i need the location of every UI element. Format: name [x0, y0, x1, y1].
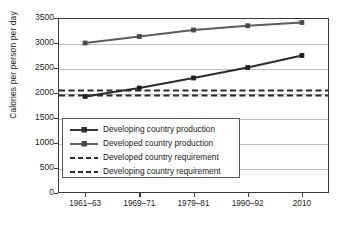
- x-tick-mark: [194, 193, 195, 197]
- data-point-marker: [191, 28, 196, 33]
- data-point-marker: [300, 20, 305, 25]
- chart-figure: Calories per person per day 050010001500…: [0, 0, 339, 234]
- data-point-marker: [191, 76, 196, 81]
- legend-label: Developing country production: [103, 124, 215, 134]
- legend-item-developed-production: Developed country production: [69, 137, 237, 151]
- data-point-marker: [83, 41, 88, 46]
- x-tick-label: 2010: [267, 199, 337, 208]
- legend-label: Developed country requirement: [103, 152, 219, 162]
- legend-item-developing-production: Developing country production: [69, 123, 237, 137]
- legend-swatch-dashed-icon: [69, 151, 99, 165]
- legend-item-developed-requirement: Developed country requirement: [69, 151, 237, 165]
- x-tick-mark: [85, 193, 86, 197]
- chart-legend: Developing country production Developed …: [62, 118, 240, 178]
- legend-swatch-solid-dark-icon: [69, 123, 99, 137]
- x-tick-mark: [248, 193, 249, 197]
- data-point-marker: [300, 53, 305, 58]
- legend-label: Developed country production: [103, 138, 213, 148]
- data-point-marker: [245, 65, 250, 70]
- legend-swatch-dashed-icon: [69, 165, 99, 179]
- x-tick-mark: [139, 193, 140, 197]
- data-point-marker: [245, 23, 250, 28]
- data-point-marker: [137, 34, 142, 39]
- legend-item-developing-requirement: Developing country requirement: [69, 165, 237, 179]
- series-line-developed-country-production: [85, 23, 302, 44]
- x-tick-mark: [302, 193, 303, 197]
- legend-swatch-solid-gray-icon: [69, 137, 99, 151]
- legend-label: Developing country requirement: [103, 166, 221, 176]
